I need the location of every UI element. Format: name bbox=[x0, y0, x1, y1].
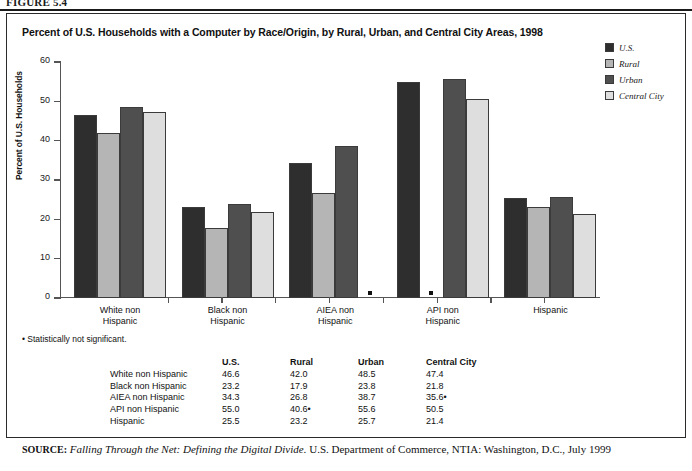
y-tick-label: 20 bbox=[40, 213, 50, 223]
legend-swatch-icon bbox=[605, 43, 614, 52]
bar bbox=[466, 99, 489, 298]
legend-label: Rural bbox=[619, 59, 640, 69]
y-tick-label: 0 bbox=[45, 291, 50, 301]
y-tick-label: 10 bbox=[40, 252, 50, 262]
table-cell-us: 46.6 bbox=[222, 369, 290, 381]
table-cell-rural: 42.0 bbox=[290, 369, 358, 381]
bar bbox=[312, 193, 335, 298]
bar bbox=[182, 207, 205, 298]
table-col-header-us: U.S. bbox=[222, 357, 290, 369]
bar bbox=[143, 112, 166, 298]
significance-footnote: • Statistically not significant. bbox=[22, 334, 127, 344]
x-axis-category-label: Hispanic bbox=[505, 305, 595, 316]
table-cell-rural: 17.9 bbox=[290, 381, 358, 393]
y-tick-label: 50 bbox=[40, 95, 50, 105]
bar bbox=[573, 214, 596, 298]
table-cell-urban: 48.5 bbox=[358, 369, 426, 381]
bar bbox=[228, 204, 251, 298]
table-row: AIEA non Hispanic34.326.838.735.6• bbox=[110, 392, 494, 404]
legend-swatch-icon bbox=[605, 75, 614, 84]
legend-swatch-icon bbox=[605, 91, 614, 100]
table-row: White non Hispanic46.642.048.547.4 bbox=[110, 369, 494, 381]
table-cell-urban: 25.7 bbox=[358, 416, 426, 428]
table-header-row: U.S. Rural Urban Central City bbox=[110, 357, 494, 369]
table-cell-central: 21.4 bbox=[426, 416, 494, 428]
bar bbox=[443, 79, 466, 298]
y-tick-mark bbox=[54, 219, 61, 220]
x-axis-tick bbox=[168, 297, 169, 303]
chart-title: Percent of U.S. Households with a Comput… bbox=[22, 26, 543, 38]
table-cell-label: AIEA non Hispanic bbox=[110, 392, 222, 404]
bar bbox=[120, 107, 143, 298]
table-cell-urban: 38.7 bbox=[358, 392, 426, 404]
x-axis-category-label: AIEA nonHispanic bbox=[290, 305, 380, 327]
table-cell-rural: 26.8 bbox=[290, 392, 358, 404]
chart-legend: U.S.RuralUrbanCentral City bbox=[605, 40, 689, 104]
table-cell-us: 25.5 bbox=[222, 416, 290, 428]
x-axis-tick bbox=[544, 297, 545, 303]
y-tick-label: 60 bbox=[40, 55, 50, 65]
bar bbox=[74, 115, 97, 298]
table-row: Hispanic25.523.225.721.4 bbox=[110, 416, 494, 428]
table-col-header-rural: Rural bbox=[290, 357, 358, 369]
table-cell-rural: 23.2 bbox=[290, 416, 358, 428]
table-cell-label: Black non Hispanic bbox=[110, 381, 222, 393]
bar bbox=[97, 133, 120, 298]
legend-label: Urban bbox=[619, 75, 643, 85]
bar bbox=[289, 163, 312, 298]
figure-header-rule bbox=[0, 9, 692, 11]
not-significant-marker bbox=[429, 291, 433, 295]
table-col-header-urban: Urban bbox=[358, 357, 426, 369]
y-tick-mark bbox=[54, 297, 61, 298]
y-tick-label: 40 bbox=[40, 134, 50, 144]
table-col-header-central-city: Central City bbox=[426, 357, 494, 369]
x-axis-tick bbox=[437, 297, 438, 303]
legend-label: Central City bbox=[619, 91, 664, 101]
table-cell-us: 23.2 bbox=[222, 381, 290, 393]
y-tick-mark bbox=[54, 101, 61, 102]
not-significant-marker bbox=[368, 291, 372, 295]
figure-number-label: FIGURE 5.4 bbox=[6, 0, 67, 8]
y-tick-mark bbox=[54, 179, 61, 180]
legend-swatch-icon bbox=[605, 59, 614, 68]
table-cell-label: Hispanic bbox=[110, 416, 222, 428]
table-cell-urban: 23.8 bbox=[358, 381, 426, 393]
source-label: SOURCE: bbox=[22, 444, 67, 455]
table-cell-central: 21.8 bbox=[426, 381, 494, 393]
table-cell-us: 55.0 bbox=[222, 404, 290, 416]
x-axis-category-label: White nonHispanic bbox=[75, 305, 165, 327]
bar bbox=[504, 198, 527, 298]
bar bbox=[205, 228, 228, 298]
table-cell-central: 47.4 bbox=[426, 369, 494, 381]
table-cell-rural: 40.6• bbox=[290, 404, 358, 416]
x-axis-tick bbox=[383, 297, 384, 303]
x-axis-category-label: API nonHispanic bbox=[398, 305, 488, 327]
source-publisher: U.S. Department of Commerce, NTIA: Washi… bbox=[306, 443, 610, 455]
y-tick-label: 30 bbox=[40, 173, 50, 183]
y-axis-title: Percent of U.S. Households bbox=[14, 71, 24, 180]
plot-area bbox=[60, 62, 598, 298]
y-tick-mark bbox=[54, 258, 61, 259]
y-tick-mark bbox=[54, 61, 61, 62]
source-line: SOURCE: Falling Through the Net: Definin… bbox=[22, 443, 611, 455]
bar bbox=[397, 82, 420, 298]
table-col-header-blank bbox=[110, 357, 222, 369]
legend-item-rural: Rural bbox=[605, 56, 689, 71]
bar bbox=[251, 212, 274, 298]
bar bbox=[527, 207, 550, 298]
legend-item-urban: Urban bbox=[605, 72, 689, 87]
legend-item-central-city: Central City bbox=[605, 88, 689, 103]
x-axis-tick bbox=[329, 297, 330, 303]
table-row: Black non Hispanic23.217.923.821.8 bbox=[110, 381, 494, 393]
x-axis-tick bbox=[275, 297, 276, 303]
table-cell-label: White non Hispanic bbox=[110, 369, 222, 381]
x-axis-tick bbox=[221, 297, 222, 303]
table-cell-urban: 55.6 bbox=[358, 404, 426, 416]
bar bbox=[335, 146, 358, 298]
x-axis-category-label: Black nonHispanic bbox=[183, 305, 273, 327]
table-row: API non Hispanic55.040.6•55.650.5 bbox=[110, 404, 494, 416]
data-table: U.S. Rural Urban Central City White non … bbox=[110, 357, 494, 428]
x-axis-tick bbox=[490, 297, 491, 303]
legend-item-u-s: U.S. bbox=[605, 40, 689, 55]
table-cell-central: 35.6• bbox=[426, 392, 494, 404]
